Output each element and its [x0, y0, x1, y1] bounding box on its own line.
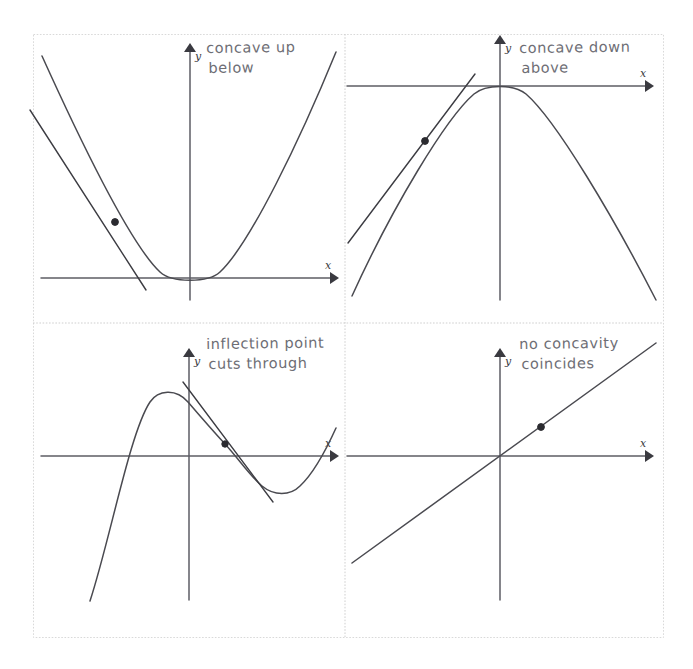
y-axis-label-q4: y	[504, 355, 512, 368]
annotation-q3-line2: cuts through	[208, 353, 324, 374]
panel-top-left: x y	[30, 43, 339, 300]
worksheet-sheet: x y x y	[0, 0, 693, 669]
annotation-concave-down: concave downabove	[519, 37, 631, 78]
annotation-q2-line1: concave down	[519, 39, 631, 56]
curve-parabola-down	[352, 87, 656, 301]
annotation-q1-line1: concave up	[206, 39, 296, 56]
y-axis-label-q3: y	[193, 355, 201, 368]
x-axis-label-q1: x	[325, 259, 332, 272]
x-axis-arrowhead-q3	[330, 450, 339, 462]
tangency-point-q1	[112, 219, 119, 226]
annotation-q3-line1: inflection point	[206, 335, 324, 352]
annotation-q1-line2: below	[208, 57, 296, 78]
annotation-q2-line2: above	[521, 57, 631, 78]
panel-bottom-right: x y	[347, 343, 656, 600]
tangent-line-q2	[348, 74, 475, 243]
annotation-inflection-point: inflection pointcuts through	[206, 333, 325, 374]
inflection-point-q3	[222, 441, 228, 447]
tangency-point-q2	[422, 138, 429, 145]
annotation-q4-line1: no concavity	[519, 335, 619, 352]
y-axis-label-q1: y	[194, 50, 202, 63]
x-axis-label-q4: x	[640, 437, 647, 450]
panel-bottom-left: x y	[41, 348, 339, 601]
y-axis-label-q2: y	[504, 42, 512, 55]
annotation-q4-line2: coincides	[521, 353, 619, 374]
curve-straight-line	[352, 343, 656, 563]
tangency-point-q4	[538, 424, 545, 431]
annotation-concave-up: concave upbelow	[206, 37, 296, 78]
curve-parabola-up	[42, 52, 336, 280]
x-axis-label-q2: x	[640, 67, 647, 80]
x-axis-arrowhead-q2	[645, 80, 654, 92]
tangent-line-q1	[30, 110, 146, 290]
curve-cubic	[90, 392, 336, 601]
annotation-no-concavity: no concavitycoincides	[519, 333, 619, 374]
x-axis-arrowhead-q4	[645, 450, 654, 462]
x-axis-arrowhead-q1	[330, 272, 339, 284]
